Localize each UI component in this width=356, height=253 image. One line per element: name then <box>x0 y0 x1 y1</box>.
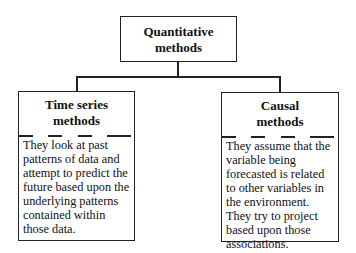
divider-dash <box>310 136 334 138</box>
connector-horizontal <box>76 76 280 78</box>
connector-right-down <box>279 76 281 93</box>
node-time-series-methods: Time series methods They look at past pa… <box>18 91 135 241</box>
causal-title-line1: Causal <box>222 98 338 114</box>
causal-title: Causal methods <box>222 98 338 130</box>
time-series-title-line2: methods <box>19 113 134 129</box>
root-node-quantitative-methods: Quantitative methods <box>120 16 237 62</box>
node-causal-methods: Causal methods They assume that the vari… <box>221 92 339 242</box>
divider-dash <box>107 135 131 137</box>
connector-left-down <box>76 76 78 92</box>
time-series-title: Time series methods <box>19 97 134 129</box>
divider-dash <box>281 136 295 138</box>
root-title-line2: methods <box>121 40 236 56</box>
divider-dash <box>48 135 62 137</box>
causal-description: They assume that the variable being fore… <box>226 139 336 251</box>
connector-root-down <box>177 61 179 77</box>
time-series-description: They look at past patterns of data and a… <box>23 138 132 236</box>
divider-dash <box>19 135 33 137</box>
divider-dash <box>78 135 92 137</box>
causal-title-line2: methods <box>222 114 338 130</box>
root-title: Quantitative methods <box>121 24 236 56</box>
divider-dash <box>222 136 236 138</box>
root-title-line1: Quantitative <box>121 24 236 40</box>
divider-dash <box>251 136 265 138</box>
time-series-title-line1: Time series <box>19 97 134 113</box>
